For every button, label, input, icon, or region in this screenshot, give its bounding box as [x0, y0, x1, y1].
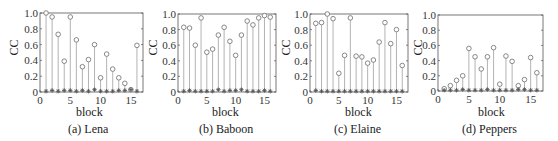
star-marker: [528, 88, 532, 92]
x-tick-label: 10: [494, 93, 506, 105]
star-marker: [504, 88, 508, 92]
circle-marker: [491, 45, 496, 50]
y-tick-label: 1.0: [422, 9, 436, 21]
x-axis-label: block: [478, 105, 505, 120]
stem-plot: 00.20.40.60.81.0051015: [0, 0, 558, 141]
circle-marker: [535, 70, 540, 75]
circle-marker: [528, 55, 533, 60]
x-tick-label: 15: [525, 93, 537, 105]
star-marker: [510, 88, 514, 92]
circle-marker: [497, 82, 502, 87]
circle-marker: [473, 55, 478, 60]
circle-marker: [479, 67, 484, 72]
y-axis-label: CC: [411, 39, 426, 55]
star-marker: [461, 87, 465, 91]
y-tick-label: 0.2: [422, 70, 436, 82]
panel-caption: (d) Peppers: [462, 122, 517, 137]
circle-marker: [522, 77, 527, 82]
star-marker: [448, 88, 452, 92]
circle-marker: [485, 55, 490, 60]
y-tick-label: 0.8: [422, 24, 436, 36]
x-tick-label: 5: [466, 93, 472, 105]
circle-marker: [454, 78, 459, 83]
circle-marker: [510, 59, 515, 64]
star-marker: [473, 88, 477, 92]
star-marker: [467, 88, 471, 92]
panel-peppers: 00.20.40.60.81.0051015 CC block (d) Pepp…: [0, 0, 558, 141]
axes-frame: [438, 15, 543, 91]
star-marker: [454, 88, 458, 92]
star-marker: [491, 88, 495, 92]
star-marker: [485, 87, 489, 91]
circle-marker: [460, 74, 465, 79]
star-marker: [522, 87, 526, 91]
star-marker: [479, 88, 483, 92]
y-tick-label: 0.4: [422, 55, 436, 67]
circle-marker: [504, 54, 509, 59]
circle-marker: [467, 46, 472, 51]
star-marker: [442, 88, 446, 92]
star-marker: [498, 88, 502, 92]
x-tick-label: 0: [435, 93, 441, 105]
circle-marker: [448, 83, 453, 88]
star-marker: [516, 87, 520, 91]
star-marker: [535, 88, 539, 92]
